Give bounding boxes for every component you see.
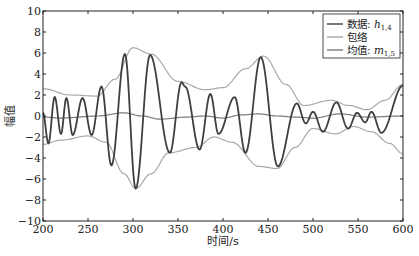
x-tick-label: 550: [348, 223, 369, 236]
y-tick-label: −4: [25, 152, 41, 165]
legend-label: 包络: [347, 31, 368, 43]
series-line: [43, 54, 403, 188]
y-tick-label: −10: [18, 215, 41, 228]
x-tick-label: 300: [123, 223, 144, 236]
x-axis-title: 时间/s: [207, 235, 239, 248]
x-tick-label: 450: [258, 223, 279, 236]
chart: 200250300350400450500550600−10−8−6−4−202…: [0, 0, 419, 256]
x-tick-label: 500: [303, 223, 324, 236]
y-tick-label: 6: [34, 47, 41, 60]
y-tick-label: −8: [25, 194, 41, 207]
y-tick-label: −6: [25, 173, 41, 186]
y-tick-label: −2: [25, 131, 41, 144]
legend: 数据: h1,4包络均值: m1,5: [323, 14, 400, 58]
plot-lines: [43, 48, 403, 189]
y-tick-label: 10: [27, 5, 41, 18]
y-tick-label: 8: [34, 26, 41, 39]
y-tick-label: 2: [34, 89, 41, 102]
series-line: [43, 127, 403, 189]
x-tick-label: 250: [78, 223, 99, 236]
x-tick-label: 350: [168, 223, 189, 236]
x-tick-label: 600: [393, 223, 414, 236]
y-tick-label: 0: [34, 110, 41, 123]
y-tick-label: 4: [34, 68, 41, 81]
y-axis-title: 幅值: [4, 105, 17, 127]
